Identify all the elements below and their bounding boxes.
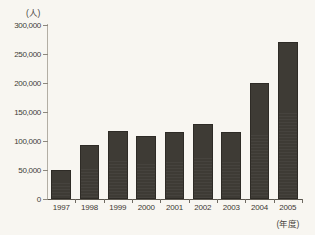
x-axis-unit-label: (年度) xyxy=(274,217,302,229)
bar xyxy=(80,145,100,199)
y-axis-tick-label: 200,000 xyxy=(14,79,41,88)
bar xyxy=(165,132,185,199)
x-axis-tick-label: 2003 xyxy=(217,203,245,212)
x-axis-tick-label: 1999 xyxy=(104,203,132,212)
bar xyxy=(193,124,213,199)
y-axis-tick-labels: 050,000100,000150,000200,000250,000300,0… xyxy=(0,0,41,235)
y-axis-tick-mark xyxy=(43,112,48,113)
y-axis-tick-mark xyxy=(43,170,48,171)
bar xyxy=(136,136,156,199)
bar-texture xyxy=(279,113,297,198)
bar xyxy=(278,42,298,199)
y-axis-tick-mark xyxy=(43,83,48,84)
x-axis-tick-mark xyxy=(302,199,303,203)
x-axis-tick-label: 2004 xyxy=(245,203,273,212)
bar-texture xyxy=(166,162,184,198)
x-axis-tick-label: 1997 xyxy=(47,203,75,212)
y-axis-tick-label: 100,000 xyxy=(14,137,41,146)
bar-texture xyxy=(251,135,269,198)
bar-texture xyxy=(137,164,155,198)
x-axis-tick-label: 2005 xyxy=(274,203,302,212)
y-axis-tick-label: 50,000 xyxy=(18,166,41,175)
plot-area xyxy=(47,25,302,199)
y-axis-tick-mark xyxy=(43,54,48,55)
y-axis-tick-label: 300,000 xyxy=(14,21,41,30)
x-axis-tick-label: 1998 xyxy=(75,203,103,212)
y-axis-tick-mark xyxy=(43,25,48,26)
bar-chart: (人) 050,000100,000150,000200,000250,0003… xyxy=(0,0,315,235)
x-axis-line xyxy=(47,199,303,200)
bar-texture xyxy=(81,169,99,198)
bar-texture xyxy=(194,158,212,198)
y-axis-tick-label: 150,000 xyxy=(14,108,41,117)
x-axis-tick-label: 2002 xyxy=(189,203,217,212)
x-axis-tick-label: 2001 xyxy=(160,203,188,212)
bar-texture xyxy=(222,162,240,198)
y-axis-tick-label: 250,000 xyxy=(14,50,41,59)
x-axis-tick-label: 2000 xyxy=(132,203,160,212)
bar xyxy=(51,170,71,199)
bar xyxy=(108,131,128,199)
bar-texture xyxy=(109,161,127,198)
y-axis-tick-mark xyxy=(43,199,48,200)
bar-texture xyxy=(52,183,70,198)
bar xyxy=(250,83,270,199)
y-axis-tick-mark xyxy=(43,141,48,142)
bar xyxy=(221,132,241,199)
y-axis-tick-label: 0 xyxy=(37,195,41,204)
